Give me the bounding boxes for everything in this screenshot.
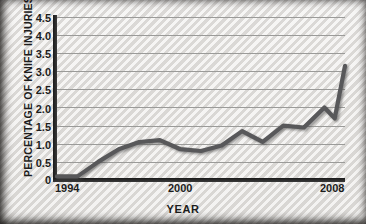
x-axis-title: YEAR <box>0 203 366 215</box>
chart-figure: 4.5 4.0 3.5 3.0 2.5 2.0 1.5 1.0 0.5 0 PE… <box>0 0 366 224</box>
plot-area <box>57 17 345 180</box>
y-axis-title: PERCENTAGE OF KNIFE INJURIES <box>22 27 34 177</box>
x-tick-label: 2008 <box>320 183 344 194</box>
x-tick-label: 1994 <box>55 183 79 194</box>
data-series-line <box>57 17 345 180</box>
x-tick-label: 2000 <box>168 183 192 194</box>
